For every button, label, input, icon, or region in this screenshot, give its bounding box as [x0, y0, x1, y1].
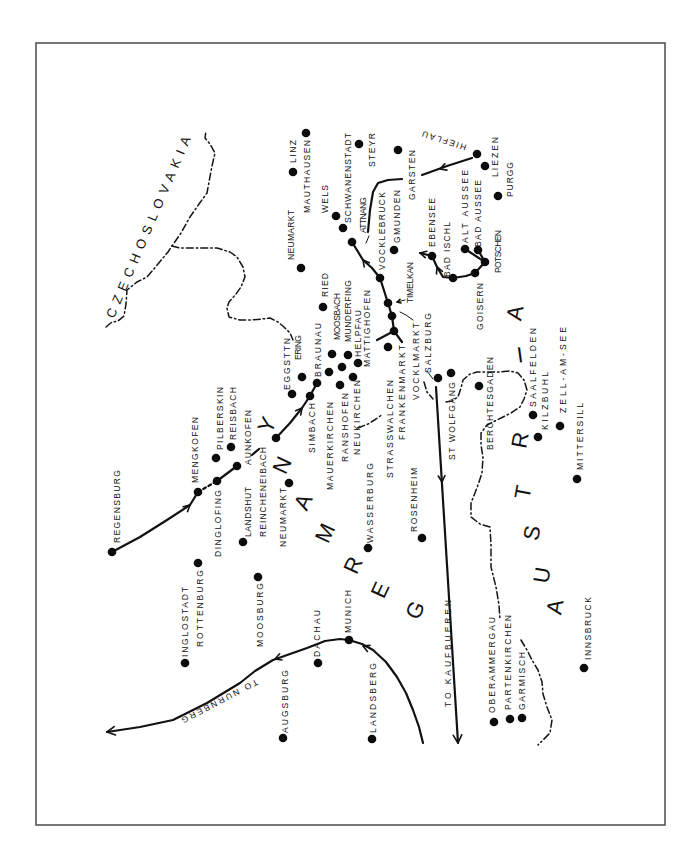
city-neumarkt: NEUMARKT	[278, 479, 293, 547]
city-label: SAALFELDEN	[528, 328, 538, 407]
city-mittersill: MITTERSILL	[573, 403, 585, 484]
country-label-germany-letter: M	[310, 519, 340, 546]
city-label: REGENSBURG	[112, 470, 122, 543]
city-purgg: PURGG	[494, 162, 515, 200]
city-dot-icon	[518, 714, 527, 723]
city-label: REINCHENEIBACH	[258, 447, 268, 537]
city-label: REISBACH	[228, 387, 238, 440]
city-dot-icon	[573, 475, 582, 484]
city-label: MITTERSILL	[575, 403, 585, 470]
region-labels: CZECHOSLOVAKIAGERMANYAUSTRIA	[103, 134, 569, 623]
city-dot-icon	[376, 274, 385, 283]
city-munich: MUNICH	[343, 590, 353, 644]
city-label: SALZBURG	[423, 313, 433, 373]
city-label: INGLOSTADT	[180, 587, 190, 657]
city-label: MUNDERFING	[343, 280, 353, 342]
map-canvas: CZECHOSLOVAKIAGERMANYAUSTRIA TO KAUFBUER…	[0, 0, 700, 863]
city-reincheneibach: REINCHENEIBACH	[258, 434, 280, 537]
city-label: LIEZEN	[490, 137, 500, 177]
country-label-czechoslovakia: CZECHOSLOVAKIA	[103, 134, 194, 320]
city-landshut: LANDSHUT	[239, 487, 253, 546]
city-dot-icon	[108, 548, 117, 557]
city-dot-icon	[475, 382, 484, 391]
city-wasserburg: WASSERBURG	[364, 463, 375, 552]
city-label: AUGSBURG	[280, 670, 290, 733]
city-label: PILBERSKIN	[215, 387, 225, 450]
city-label: POTSCHEN	[493, 230, 503, 273]
route-regensburg-mengkofen	[112, 492, 198, 552]
city-dot-icon	[348, 238, 357, 247]
city-alt-aussee: ALT AUSSEE	[460, 170, 470, 254]
city-label: WELS	[320, 185, 330, 213]
city-braunau: BRAUNAU	[313, 323, 323, 387]
country-label-austria-letter: R	[506, 430, 533, 450]
city-label: SIMBACH	[307, 403, 317, 453]
city-label: BERCHTESGADEN	[485, 357, 495, 450]
city-label: STEYR	[367, 133, 377, 167]
city-salzburg: SALZBURG	[423, 313, 442, 382]
city-dot-icon	[473, 150, 482, 159]
city-dot-icon	[481, 258, 490, 267]
city-hieflau: HIEFLAU	[421, 129, 482, 158]
country-label-germany-letter: R	[338, 553, 367, 578]
city-steyr: STEYR	[355, 133, 377, 167]
city-label: ZELL-AM-SEE	[558, 327, 568, 413]
city-saalfelden: SAALFELDEN	[528, 328, 538, 419]
city-label: PARTENKIRCHEN	[503, 615, 513, 710]
city-label: LINZ	[288, 140, 298, 163]
germany-austria-border-north	[172, 246, 293, 340]
city-label: ST WOLFGANG	[447, 382, 457, 460]
city-dot-icon	[388, 312, 397, 321]
city-dot-icon	[390, 246, 399, 255]
city-garmisch: GARMISCH	[517, 652, 527, 722]
city-dot-icon	[461, 245, 470, 254]
city-dot-icon	[279, 734, 288, 743]
city-liezen: LIEZEN	[481, 137, 500, 177]
map-page: CZECHOSLOVAKIAGERMANYAUSTRIA TO KAUFBUER…	[0, 0, 700, 863]
city-label: MOOSBACH	[332, 293, 342, 340]
city-dot-icon	[297, 264, 306, 273]
city-label: ATTNANG	[358, 197, 368, 233]
city-dot-icon	[313, 379, 322, 388]
city-dot-icon	[314, 659, 323, 668]
city-mengkofen: MENGKOFEN	[190, 417, 202, 496]
city-dot-icon	[345, 636, 354, 645]
leader-line	[400, 312, 413, 320]
country-label-austria-letter: A	[541, 597, 568, 616]
city-dot-icon	[490, 718, 499, 727]
city-dot-icon	[471, 269, 480, 278]
city-berchtesgaden: BERCHTESGADEN	[475, 357, 495, 450]
city-dot-icon	[272, 434, 281, 443]
country-label-austria-letter: T	[510, 483, 537, 501]
country-label-austria-letter: U	[528, 565, 555, 585]
city-label: OBERAMMERGAU	[487, 617, 497, 713]
city-label: GMUNDEN	[392, 190, 402, 243]
city-ranshofen: RANSHOFEN	[336, 381, 350, 462]
city-label: PURGG	[505, 162, 515, 197]
city-dot-icon	[364, 544, 373, 553]
city-goisern: GOISERN	[471, 269, 485, 330]
city-ried: RIED	[319, 273, 330, 311]
route-label-to-kaufbueren: TO KAUFBUEREN	[443, 600, 453, 707]
city-label: BAD ISCHL	[442, 222, 452, 277]
city-label: EGGSTTN	[282, 338, 292, 390]
city-label: MENGKOFEN	[190, 417, 200, 483]
city-dot-icon	[354, 359, 363, 368]
city-dot-icon	[325, 368, 334, 377]
city-label: DACHAU	[312, 610, 322, 657]
city-reisbach: REISBACH	[227, 387, 238, 451]
city-potschen: POTSCHEN	[481, 230, 503, 273]
city-label: ROTTENBURG	[195, 570, 205, 647]
city-label: SCHWANENSTADT	[343, 133, 353, 223]
city-dot-icon	[194, 559, 203, 568]
city-dot-icon	[580, 664, 589, 673]
city-label: NEUMARKT	[278, 488, 288, 547]
city-gmunden: GMUNDEN	[390, 190, 402, 254]
city-dot-icon	[534, 433, 543, 442]
city-regensburg: REGENSBURG	[108, 470, 122, 556]
city-label: KILZBUHL	[540, 372, 550, 430]
city-bad-ischl: BAD ISCHL	[442, 222, 457, 283]
city-label: LANDSBERG	[368, 663, 378, 733]
city-dot-icon	[394, 146, 403, 155]
city-dot-icon	[418, 534, 427, 543]
